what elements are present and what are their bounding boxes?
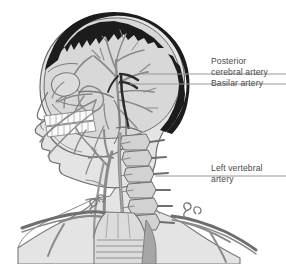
- head-neck-artery-illustration: [0, 0, 286, 264]
- label-posterior-cerebral-artery-line1: Posterior: [211, 56, 268, 67]
- label-left-vertebral-artery-line1: Left vertebral: [211, 163, 263, 174]
- label-posterior-cerebral-artery: Posterior cerebral artery: [211, 56, 268, 78]
- anatomy-figure: Posterior cerebral artery Basilar artery…: [0, 0, 286, 264]
- label-left-vertebral-artery: Left vertebral artery: [211, 163, 263, 185]
- label-left-vertebral-artery-line2: artery: [211, 174, 263, 185]
- label-basilar-artery: Basilar artery: [211, 78, 263, 89]
- label-basilar-artery-line1: Basilar artery: [211, 78, 263, 89]
- label-posterior-cerebral-artery-line2: cerebral artery: [211, 67, 268, 78]
- head-profile: [35, 12, 189, 188]
